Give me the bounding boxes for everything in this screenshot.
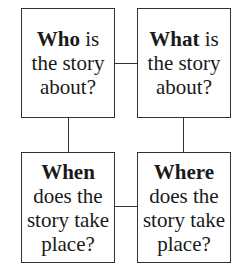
box-when-line3: story take	[27, 208, 109, 232]
box-who-line2: the story	[32, 51, 105, 75]
box-when-keyword: When	[41, 160, 95, 184]
box-what-line1: What is	[149, 27, 218, 51]
box-when-line4: place?	[41, 232, 95, 256]
box-where: Where does the story take place?	[137, 152, 231, 263]
box-who-line3: about?	[40, 75, 96, 99]
box-what-keyword: What	[149, 27, 199, 51]
box-where-keyword: Where	[154, 160, 214, 184]
connector-who-what	[114, 63, 137, 64]
box-who-line1: Who is	[37, 27, 99, 51]
box-who: Who is the story about?	[21, 8, 115, 118]
box-when-line2: does the	[33, 184, 102, 208]
box-where-line4: place?	[157, 232, 211, 256]
box-who-keyword: Who	[37, 27, 80, 51]
box-what-line2: the story	[148, 51, 221, 75]
connector-what-where	[183, 117, 184, 152]
box-when: When does the story take place?	[21, 152, 115, 263]
box-where-line3: story take	[143, 208, 225, 232]
connector-who-when	[68, 117, 69, 152]
connector-when-where	[114, 206, 137, 207]
box-what: What is the story about?	[137, 8, 231, 118]
box-what-line3: about?	[156, 75, 212, 99]
box-where-line2: does the	[149, 184, 218, 208]
